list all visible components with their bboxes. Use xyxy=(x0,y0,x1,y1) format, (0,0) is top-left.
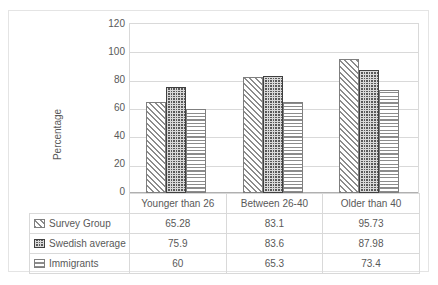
value-survey-group-older-than-40: 95.73 xyxy=(323,214,420,234)
bar-immigrants-younger-than-26 xyxy=(186,109,206,193)
bar-group-younger-than-26 xyxy=(130,24,227,193)
legend-item-swedish-average: Swedish average xyxy=(30,234,130,254)
value-survey-group-between-26-40: 83.1 xyxy=(226,214,323,234)
y-tick-120: 120 xyxy=(91,19,125,29)
value-survey-group-younger-than-26: 65.28 xyxy=(130,214,227,234)
category-header-1: Between 26-40 xyxy=(226,194,323,214)
bar-swedish-average-younger-than-26 xyxy=(166,87,186,193)
category-header-2: Older than 40 xyxy=(323,194,420,214)
chart-container: Percentage 120 100 80 60 40 20 0 xyxy=(8,10,429,272)
bar-immigrants-older-than-40 xyxy=(379,90,399,193)
table-row-categories: Younger than 26 Between 26-40 Older than… xyxy=(30,194,420,214)
table-row: Swedish average 75.9 83.6 87.98 xyxy=(30,234,420,254)
bar-swedish-average-older-than-40 xyxy=(359,70,379,193)
bar-group-between-26-40 xyxy=(227,24,324,193)
y-tick-60: 60 xyxy=(91,103,125,113)
legend-item-immigrants: Immigrants xyxy=(30,254,130,274)
legend-label-swedish-average: Swedish average xyxy=(49,238,126,249)
y-axis-title-wrap: Percentage xyxy=(39,51,59,161)
table-row: Survey Group 65.28 83.1 95.73 xyxy=(30,214,420,234)
category-header-0: Younger than 26 xyxy=(130,194,227,214)
y-axis-title: Percentage xyxy=(52,90,63,180)
y-axis-tick-labels: 120 100 80 60 40 20 0 xyxy=(85,11,125,193)
y-tick-100: 100 xyxy=(91,47,125,57)
bar-survey-group-between-26-40 xyxy=(243,77,263,193)
legend-swatch-horizontal-lines-icon xyxy=(34,259,45,268)
y-tick-80: 80 xyxy=(91,75,125,85)
legend-label-immigrants: Immigrants xyxy=(49,258,98,269)
plot-area xyxy=(129,23,419,193)
bar-immigrants-between-26-40 xyxy=(283,102,303,193)
data-table: Younger than 26 Between 26-40 Older than… xyxy=(29,193,420,274)
bar-swedish-average-between-26-40 xyxy=(263,76,283,193)
legend-swatch-diagonal-hatch-icon xyxy=(34,219,45,228)
legend-item-survey-group: Survey Group xyxy=(30,214,130,234)
y-tick-40: 40 xyxy=(91,131,125,141)
table-corner-cell xyxy=(30,194,130,214)
value-immigrants-between-26-40: 65.3 xyxy=(226,254,323,274)
bar-survey-group-older-than-40 xyxy=(339,59,359,193)
value-immigrants-older-than-40: 73.4 xyxy=(323,254,420,274)
value-immigrants-younger-than-26: 60 xyxy=(130,254,227,274)
legend-label-survey-group: Survey Group xyxy=(49,218,111,229)
value-swedish-average-younger-than-26: 75.9 xyxy=(130,234,227,254)
bar-survey-group-younger-than-26 xyxy=(146,102,166,193)
legend-swatch-grid-icon xyxy=(34,239,45,248)
table-row: Immigrants 60 65.3 73.4 xyxy=(30,254,420,274)
bar-group-older-than-40 xyxy=(323,24,420,193)
value-swedish-average-older-than-40: 87.98 xyxy=(323,234,420,254)
value-swedish-average-between-26-40: 83.6 xyxy=(226,234,323,254)
y-tick-20: 20 xyxy=(91,159,125,169)
